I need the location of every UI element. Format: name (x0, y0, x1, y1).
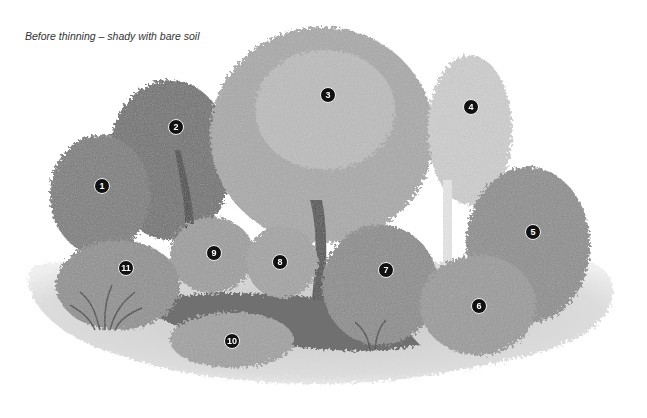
marker-shrub-1: 1 (94, 178, 110, 194)
marker-groundcover-10: 10 (224, 333, 240, 349)
marker-shrub-7: 7 (378, 262, 394, 278)
marker-tree-3: 3 (320, 87, 336, 103)
marker-shrub-9: 9 (206, 245, 222, 261)
marker-shrub-5: 5 (525, 224, 541, 240)
marker-shrub-11: 11 (118, 260, 134, 276)
marker-shrub-6: 6 (471, 298, 487, 314)
garden-illustration (0, 0, 647, 418)
marker-birch-tree-4: 4 (463, 99, 479, 115)
marker-shrub-8: 8 (272, 254, 288, 270)
marker-tree-2: 2 (168, 119, 184, 135)
